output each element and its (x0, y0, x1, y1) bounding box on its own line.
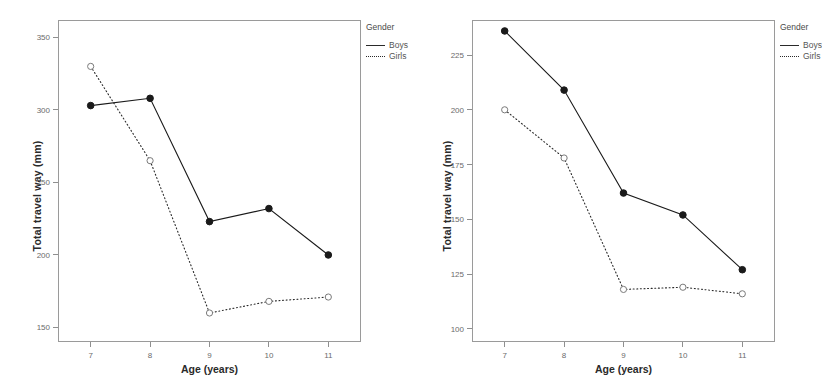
legend-title: Gender (780, 22, 822, 32)
x-tick-label: 7 (88, 351, 92, 360)
data-point-girls (561, 155, 567, 161)
chart-panel-right: Total travel way (mm) 100125150175200225… (410, 0, 821, 392)
data-point-boys (266, 205, 273, 212)
y-tick-label: 125 (440, 270, 464, 279)
x-tick-label: 7 (502, 351, 506, 360)
data-point-girls (739, 291, 745, 297)
legend-item-boys[interactable]: Boys (780, 39, 822, 50)
data-point-girls (502, 107, 508, 113)
series-line-boys (91, 98, 329, 255)
y-tick-label: 250 (26, 178, 50, 187)
y-tick-label: 300 (26, 105, 50, 114)
legend-item-label: Boys (389, 40, 408, 50)
y-tick-label: 200 (26, 250, 50, 259)
x-tick-label: 9 (207, 351, 211, 360)
data-point-boys (620, 190, 627, 197)
x-axis-title: Age (years) (58, 363, 361, 375)
data-point-girls (620, 286, 626, 292)
x-tick-label: 9 (621, 351, 625, 360)
y-tick-mark (467, 55, 472, 56)
data-point-boys (680, 212, 687, 219)
legend-item-girls[interactable]: Girls (780, 50, 822, 61)
y-tick-label: 350 (26, 33, 50, 42)
legend: GenderBoysGirls (366, 22, 408, 61)
x-tick-mark (209, 342, 210, 347)
legend-title: Gender (366, 22, 408, 32)
plot-area (410, 0, 821, 392)
y-tick-mark (467, 109, 472, 110)
x-axis-title: Age (years) (472, 363, 775, 375)
data-point-boys (739, 266, 746, 273)
data-point-girls (680, 284, 686, 290)
legend-line-icon (366, 52, 385, 60)
data-point-boys (87, 102, 94, 109)
y-tick-label: 200 (440, 105, 464, 114)
y-tick-label: 225 (440, 51, 464, 60)
data-point-girls (266, 298, 272, 304)
data-point-boys (561, 87, 568, 94)
legend-line-icon (780, 52, 799, 60)
legend-item-label: Boys (803, 40, 822, 50)
data-point-girls (206, 310, 212, 316)
y-tick-mark (467, 219, 472, 220)
legend: GenderBoysGirls (780, 22, 822, 61)
y-tick-mark (53, 37, 58, 38)
y-tick-mark (467, 328, 472, 329)
y-tick-label: 175 (440, 160, 464, 169)
x-tick-label: 10 (678, 351, 687, 360)
legend-item-boys[interactable]: Boys (366, 39, 408, 50)
series-line-girls (505, 110, 743, 294)
y-tick-label: 150 (26, 323, 50, 332)
chart-panel-left: Total travel way (mm) 150200250300350 78… (0, 0, 410, 392)
data-point-boys (147, 95, 154, 102)
y-tick-mark (53, 254, 58, 255)
series-line-girls (91, 66, 329, 313)
plot-area (0, 0, 411, 392)
x-tick-label: 8 (562, 351, 566, 360)
x-tick-mark (268, 342, 269, 347)
data-point-boys (206, 218, 213, 225)
y-tick-mark (467, 274, 472, 275)
x-tick-mark (564, 342, 565, 347)
x-tick-mark (328, 342, 329, 347)
y-tick-mark (467, 164, 472, 165)
legend-line-icon (366, 41, 385, 49)
data-point-girls (88, 63, 94, 69)
x-tick-label: 10 (264, 351, 273, 360)
x-tick-mark (742, 342, 743, 347)
y-tick-mark (53, 327, 58, 328)
legend-line-icon (780, 41, 799, 49)
x-tick-mark (623, 342, 624, 347)
legend-item-label: Girls (803, 51, 820, 61)
y-tick-mark (53, 182, 58, 183)
data-point-boys (501, 28, 508, 35)
y-tick-label: 150 (440, 215, 464, 224)
x-tick-mark (150, 342, 151, 347)
data-point-girls (325, 294, 331, 300)
data-point-boys (325, 252, 332, 259)
series-line-boys (505, 31, 743, 270)
data-point-girls (147, 158, 153, 164)
x-tick-mark (504, 342, 505, 347)
legend-item-girls[interactable]: Girls (366, 50, 408, 61)
y-tick-label: 100 (440, 324, 464, 333)
x-tick-mark (90, 342, 91, 347)
x-tick-label: 11 (324, 351, 332, 360)
legend-item-label: Girls (389, 51, 406, 61)
x-tick-label: 8 (148, 351, 152, 360)
x-tick-label: 11 (738, 351, 746, 360)
x-tick-mark (682, 342, 683, 347)
y-tick-mark (53, 109, 58, 110)
